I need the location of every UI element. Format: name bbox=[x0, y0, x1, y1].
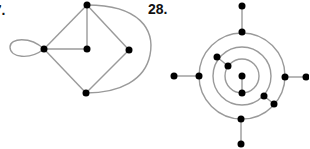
vertex bbox=[239, 73, 246, 80]
vertex bbox=[84, 2, 91, 9]
loop-edge bbox=[10, 40, 44, 57]
vertex bbox=[238, 141, 245, 148]
vertex bbox=[271, 101, 278, 108]
vertex bbox=[126, 47, 133, 54]
vertex bbox=[282, 74, 289, 81]
edge bbox=[44, 49, 86, 93]
edge bbox=[87, 5, 129, 50]
vertex bbox=[303, 74, 310, 81]
vertex bbox=[196, 73, 203, 80]
vertex bbox=[41, 46, 48, 53]
vertex bbox=[171, 73, 178, 80]
vertex bbox=[261, 93, 268, 100]
edge bbox=[44, 5, 87, 49]
vertex bbox=[225, 63, 232, 70]
vertex bbox=[239, 3, 246, 10]
curved-edge bbox=[86, 5, 151, 93]
vertex bbox=[83, 90, 90, 97]
vertex bbox=[239, 90, 246, 97]
vertex bbox=[238, 116, 245, 123]
graph-diagrams bbox=[0, 0, 309, 149]
vertex bbox=[214, 54, 221, 61]
graph-28-vertices bbox=[171, 3, 310, 148]
vertex bbox=[239, 29, 246, 36]
vertex bbox=[84, 46, 91, 53]
